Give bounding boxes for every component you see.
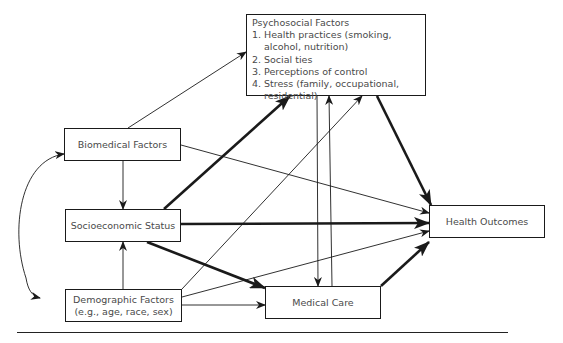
item-number: 1. — [252, 29, 264, 53]
item-number: 4. — [252, 78, 264, 102]
arrow-biomedical-to-psychosocial — [128, 52, 246, 128]
arrow-medical-care-to-health-outcomes — [381, 242, 429, 286]
psychosocial-item: 4. Stress (family, occupational, residen… — [252, 78, 420, 102]
socioeconomic-label: Socioeconomic Status — [71, 220, 176, 232]
demographic-label: Demographic Factors — [73, 294, 174, 306]
psychosocial-item: 1. Health practices (smoking, alcohol, n… — [252, 29, 420, 53]
arrow-socioeconomic-to-medical-care — [147, 242, 265, 288]
bottom-rule — [17, 332, 508, 333]
psychosocial-title: Psychosocial Factors — [252, 17, 420, 29]
arrow-demographic-to-psychosocial — [182, 96, 362, 289]
psychosocial-factors-box: Psychosocial Factors 1. Health practices… — [246, 14, 426, 96]
medical-care-box: Medical Care — [265, 286, 381, 319]
psychosocial-item: 3. Perceptions of control — [252, 66, 420, 78]
biomedical-factors-box: Biomedical Factors — [64, 128, 181, 161]
health-outcomes-label: Health Outcomes — [446, 216, 529, 228]
arrow-demographic-to-biomedical — [19, 154, 64, 278]
arrow-psychosocial-to-health-outcomes — [377, 96, 431, 205]
item-text: Social ties — [264, 54, 312, 66]
psychosocial-item: 2. Social ties — [252, 54, 420, 66]
health-outcomes-box: Health Outcomes — [429, 205, 545, 238]
biomedical-label: Biomedical Factors — [78, 139, 167, 151]
item-text: Perceptions of control — [264, 66, 367, 78]
demographic-factors-box: Demographic Factors (e.g., age, race, se… — [65, 289, 182, 322]
arrow-biomedical-to-demographic — [26, 278, 40, 298]
demographic-examples: (e.g., age, race, sex) — [74, 306, 172, 318]
socioeconomic-status-box: Socioeconomic Status — [65, 209, 181, 242]
arrow-biomedical-to-health-outcomes — [181, 145, 429, 213]
medical-care-label: Medical Care — [292, 297, 353, 309]
item-number: 2. — [252, 54, 264, 66]
item-number: 3. — [252, 66, 264, 78]
arrow-socioeconomic-to-health-outcomes — [181, 223, 429, 224]
item-text: Stress (family, occupational, residentia… — [264, 78, 420, 102]
arrow-psychosocial-to-medical-care — [317, 96, 318, 286]
arrow-socioeconomic-to-psychosocial — [164, 96, 290, 209]
item-text: Health practices (smoking, alcohol, nutr… — [264, 29, 420, 53]
